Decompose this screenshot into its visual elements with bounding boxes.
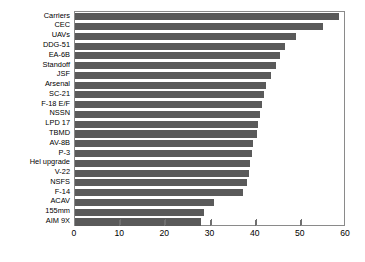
y-axis-tick-label: DDG-51 [0, 41, 70, 49]
bar-row [75, 51, 344, 61]
x-axis-inner-tick-mark [256, 219, 257, 225]
x-axis-tick-label: 30 [205, 228, 215, 238]
x-axis-tick-mark [300, 220, 301, 226]
y-axis-tick-label: V-22 [0, 168, 70, 176]
y-axis-tick-label: F-18 E/F [0, 100, 70, 108]
bar-row [75, 149, 344, 159]
x-axis-tick-label: 0 [72, 228, 77, 238]
x-axis-tick-label: 10 [114, 228, 124, 238]
y-axis-tick-label: Standoff [0, 61, 70, 69]
bar-row [75, 22, 344, 32]
x-axis-tick-label: 50 [295, 228, 305, 238]
bar [75, 209, 204, 216]
bar [75, 150, 252, 157]
x-axis-tick-mark [210, 220, 211, 226]
bar-row [75, 71, 344, 81]
bar-row [75, 178, 344, 188]
bar [75, 199, 214, 206]
bar [75, 170, 249, 177]
bar [75, 130, 257, 137]
horizontal-bar-chart: CarriersCECUAVsDDG-51EA-6BStandoffJSFArs… [0, 0, 365, 262]
y-axis-tick-label: Arsenal [0, 80, 70, 88]
bars-layer [75, 12, 344, 225]
bar-row [75, 120, 344, 130]
y-axis-tick-label: SC-21 [0, 90, 70, 98]
y-axis-tick-label: NSFS [0, 178, 70, 186]
bar-row [75, 32, 344, 42]
bar-row [75, 41, 344, 51]
y-axis-tick-label: NSSN [0, 109, 70, 117]
bar [75, 62, 276, 69]
bar [75, 111, 260, 118]
bar [75, 13, 339, 20]
y-axis-tick-label: AIM 9X [0, 217, 70, 225]
x-axis-tick-mark [164, 220, 165, 226]
bar [75, 160, 250, 167]
bar-row [75, 90, 344, 100]
x-axis-tick-label: 20 [160, 228, 170, 238]
bar [75, 140, 253, 147]
bar [75, 101, 262, 108]
x-axis-tick-label: 40 [250, 228, 260, 238]
y-axis-tick-label: Carriers [0, 12, 70, 20]
y-axis-tick-label: F-14 [0, 188, 70, 196]
bar-row [75, 80, 344, 90]
y-axis-tick-label: Hel upgrade [0, 158, 70, 166]
x-axis-tick-mark [119, 220, 120, 226]
x-axis-inner-tick-mark [301, 219, 302, 225]
y-axis-tick-label: CEC [0, 21, 70, 29]
bar [75, 91, 264, 98]
bar-row [75, 100, 344, 110]
bar-row [75, 12, 344, 22]
bar [75, 72, 271, 79]
bar [75, 179, 247, 186]
bar [75, 23, 323, 30]
y-axis-tick-label: AV-8B [0, 139, 70, 147]
y-axis-tick-label: P-3 [0, 149, 70, 157]
bar-row [75, 198, 344, 208]
bar [75, 121, 258, 128]
bar-row [75, 129, 344, 139]
y-axis-tick-label: TBMD [0, 129, 70, 137]
bar [75, 189, 243, 196]
y-axis-tick-label: ACAV [0, 197, 70, 205]
bar-row [75, 188, 344, 198]
y-axis-tick-label: 155mm [0, 207, 70, 215]
x-axis-inner-tick-mark [165, 219, 166, 225]
bar-row [75, 110, 344, 120]
plot-area [74, 11, 345, 226]
bar-row [75, 207, 344, 217]
y-axis-tick-label: JSF [0, 70, 70, 78]
bar-row [75, 159, 344, 169]
x-axis-tick-label: 60 [340, 228, 350, 238]
y-axis-category-labels: CarriersCECUAVsDDG-51EA-6BStandoffJSFArs… [0, 11, 72, 226]
y-axis-tick-label: EA-6B [0, 51, 70, 59]
bar-row [75, 61, 344, 71]
bar [75, 43, 285, 50]
bar [75, 33, 296, 40]
x-axis: 0102030405060 [74, 226, 345, 256]
bar [75, 218, 201, 225]
bar [75, 52, 280, 59]
bar [75, 82, 266, 89]
y-axis-tick-label: UAVs [0, 31, 70, 39]
bar-row [75, 139, 344, 149]
x-axis-inner-tick-mark [120, 219, 121, 225]
x-axis-inner-tick-mark [211, 219, 212, 225]
x-axis-tick-mark [255, 220, 256, 226]
y-axis-tick-label: LPD 17 [0, 119, 70, 127]
bar-row [75, 168, 344, 178]
